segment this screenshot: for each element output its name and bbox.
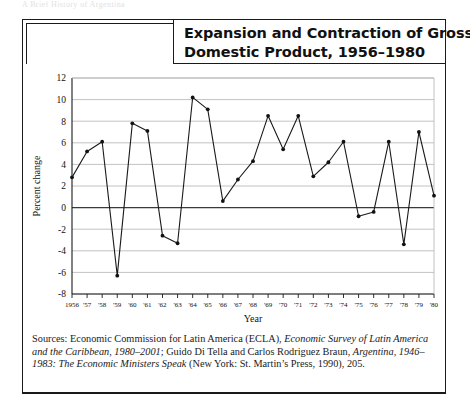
svg-text:'64: '64: [189, 301, 198, 309]
svg-text:'73: '73: [324, 301, 333, 309]
svg-text:2: 2: [61, 181, 66, 191]
svg-text:'74: '74: [339, 301, 348, 309]
chart-x-axis-ticks: [72, 294, 434, 298]
svg-text:4: 4: [61, 160, 66, 170]
figure-source-note: Sources: Economic Commission for Latin A…: [32, 333, 438, 371]
svg-text:'65: '65: [204, 301, 213, 309]
svg-text:8: 8: [61, 117, 66, 127]
svg-text:'59: '59: [113, 301, 122, 309]
svg-text:'63: '63: [173, 301, 182, 309]
svg-text:'71: '71: [294, 301, 303, 309]
svg-text:'78: '78: [400, 301, 409, 309]
source-prefix: Sources: Economic Commission for Latin A…: [32, 333, 284, 344]
gdp-line-chart: -8-6-4-2024681012 1956'57'58'59'60'61'62…: [26, 64, 442, 329]
svg-text:'62: '62: [158, 301, 167, 309]
svg-text:'61: '61: [143, 301, 152, 309]
svg-text:1956: 1956: [65, 301, 80, 309]
svg-text:-6: -6: [58, 268, 66, 278]
svg-text:'67: '67: [234, 301, 243, 309]
svg-text:'58: '58: [98, 301, 107, 309]
svg-text:'75: '75: [354, 301, 363, 309]
svg-text:6: 6: [61, 138, 66, 148]
svg-text:'79: '79: [415, 301, 424, 309]
svg-text:-8: -8: [58, 289, 66, 299]
svg-text:'72: '72: [309, 301, 318, 309]
bottom-rule: [22, 392, 446, 394]
svg-text:0: 0: [61, 203, 66, 213]
title-cutout-panel: [26, 23, 173, 64]
figure-title-line-1: Expansion and Contraction of Gross: [184, 24, 437, 43]
chart-data-markers: [70, 96, 436, 278]
svg-text:'57: '57: [83, 301, 92, 309]
svg-text:'66: '66: [219, 301, 228, 309]
svg-text:'77: '77: [385, 301, 394, 309]
source-middle: ; Guido Di Tella and Carlos Rodriguez Br…: [161, 346, 353, 357]
svg-text:-2: -2: [58, 225, 66, 235]
svg-text:'68: '68: [249, 301, 258, 309]
running-head: A Brief History of Argentina: [22, 0, 125, 9]
svg-text:'60: '60: [128, 301, 137, 309]
svg-text:'76: '76: [370, 301, 379, 309]
figure-title-box: Expansion and Contraction of Gross Domes…: [173, 19, 446, 64]
chart-series-line: [72, 97, 434, 275]
chart-y-tick-labels: -8-6-4-2024681012: [57, 73, 67, 299]
svg-text:'69: '69: [264, 301, 273, 309]
svg-text:12: 12: [57, 73, 67, 83]
svg-text:'80: '80: [430, 301, 439, 309]
source-suffix: (New York: St. Martin’s Press, 1990), 20…: [186, 358, 365, 369]
svg-text:-4: -4: [58, 246, 66, 256]
chart-svg: -8-6-4-2024681012 1956'57'58'59'60'61'62…: [26, 64, 442, 329]
svg-text:'70: '70: [279, 301, 288, 309]
chart-x-tick-labels: 1956'57'58'59'60'61'62'63'64'65'66'67'68…: [65, 301, 439, 309]
figure-title-line-2: Domestic Product, 1956–1980: [184, 43, 437, 62]
chart-y-axis-title: Percent change: [31, 155, 42, 216]
svg-text:10: 10: [57, 95, 67, 105]
chart-x-axis-title: Year: [244, 313, 263, 324]
